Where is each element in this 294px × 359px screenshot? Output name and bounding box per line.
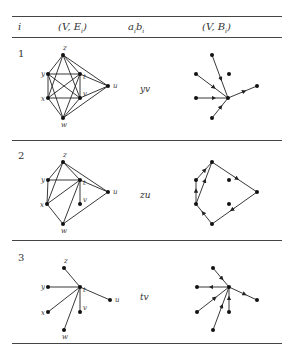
arrow-head-icon: [221, 278, 222, 279]
node-label-v: v: [83, 196, 87, 204]
node-label-z: z: [62, 44, 67, 52]
tree-node-x: [195, 310, 199, 314]
graph-node-w: [61, 222, 65, 226]
graph-node-y: [46, 285, 50, 289]
node-label-t: t: [83, 286, 86, 294]
graph-edge: [48, 162, 63, 180]
graph-node-z: [62, 266, 66, 270]
node-label-v: v: [83, 304, 87, 312]
graph-node-t: [78, 285, 82, 289]
nodes-layer: zytuxvwzytuxvwzytuxvw: [40, 44, 259, 341]
tree-node-x: [194, 96, 198, 100]
node-label-w: w: [61, 227, 67, 235]
tree-node-y: [194, 72, 198, 76]
node-label-w: w: [61, 121, 67, 129]
graph-node-u: [108, 298, 112, 302]
graph-edge: [64, 268, 80, 287]
graph-edge: [47, 204, 63, 224]
tree-node-z: [210, 53, 214, 57]
node-label-y: y: [40, 283, 46, 291]
graph-node-t: [78, 72, 82, 76]
graph-node-u: [106, 190, 110, 194]
node-label-z: z: [62, 151, 67, 159]
node-label-y: y: [40, 176, 46, 184]
node-label-u: u: [113, 82, 118, 90]
tree-node-t: [227, 178, 231, 182]
graph-edge: [48, 55, 63, 98]
graph-edge: [63, 162, 80, 180]
arrow-head-icon: [243, 294, 245, 295]
tree-node-z: [211, 266, 215, 270]
graph-node-y: [46, 178, 50, 182]
node-label-y: y: [40, 70, 46, 78]
arrow-head-icon: [221, 306, 222, 309]
arrow-head-icon: [232, 208, 235, 210]
tree-node-y: [195, 285, 199, 289]
graph-node-z: [61, 160, 65, 164]
tree-node-v: [226, 96, 230, 100]
tree-node-x: [194, 202, 198, 206]
tree-node-u: [255, 190, 259, 194]
arrow-head-icon: [220, 77, 221, 80]
tree-node-w: [210, 222, 214, 226]
tree-node-y: [194, 178, 198, 182]
graph-node-t: [78, 178, 82, 182]
tree-node-z: [210, 160, 214, 164]
node-label-t: t: [83, 179, 86, 187]
arrow-head-icon: [213, 298, 215, 300]
graph-node-z: [61, 53, 65, 57]
tree-node-u: [255, 84, 259, 88]
node-label-v: v: [83, 90, 87, 98]
graph-node-w: [62, 328, 66, 332]
tree-node-v: [227, 202, 231, 206]
node-label-x: x: [41, 309, 45, 317]
node-label-w: w: [62, 333, 68, 341]
graph-node-u: [106, 84, 110, 88]
graph-node-x: [45, 202, 49, 206]
tree-node-w: [210, 116, 214, 120]
graph-node-w: [61, 116, 65, 120]
tree-node-u: [255, 298, 259, 302]
tree-node-t: [227, 72, 231, 76]
node-label-u: u: [115, 296, 120, 304]
arrow-head-icon: [212, 86, 214, 87]
node-label-u: u: [113, 188, 118, 196]
graph-node-x: [46, 96, 50, 100]
graph-edge: [48, 55, 63, 74]
graph-node-v: [78, 310, 82, 314]
graph-edge: [47, 180, 48, 204]
node-label-z: z: [63, 257, 68, 265]
edges-layer: [47, 55, 257, 330]
graph-node-v: [78, 202, 82, 206]
arrow-head-icon: [204, 180, 205, 183]
tree-node-w: [211, 328, 215, 332]
graph-canvas: zytuxvwzytuxvwzytuxvw: [0, 0, 294, 359]
tree-node-v: [227, 310, 231, 314]
arrow-head-icon: [235, 177, 238, 179]
graph-edge: [48, 98, 63, 118]
arrow-head-icon: [204, 170, 205, 171]
arrow-head-icon: [203, 213, 204, 214]
tree-node-t: [227, 285, 231, 289]
graph-node-x: [46, 310, 50, 314]
arrow-head-icon: [220, 107, 221, 108]
arrow-head-icon: [243, 91, 245, 92]
node-label-x: x: [40, 201, 44, 209]
graph-node-y: [46, 72, 50, 76]
node-label-t: t: [83, 73, 86, 81]
node-label-x: x: [41, 95, 45, 103]
graph-node-v: [78, 96, 82, 100]
